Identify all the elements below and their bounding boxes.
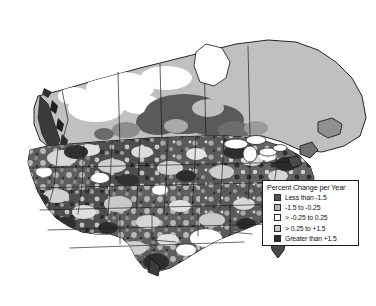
legend-label-3: > 0.25 to +1.5 [285,225,326,232]
legend-swatch-greater-than-pos-1-5 [274,235,281,242]
legend-item-0: Less than -1.5 [274,192,355,202]
legend-label-0: Less than -1.5 [285,194,327,201]
map-legend: Percent Change per Year Less than -1.5 -… [262,180,359,246]
legend-label-1: -1.5 to -0.25 [285,204,320,211]
north-america-map [0,0,376,306]
legend-label-4: Greater than +1.5 [285,235,337,242]
legend-item-3: > 0.25 to +1.5 [274,223,355,233]
legend-swatch-neg-0-25-to-0-25 [274,214,281,221]
legend-swatch-less-than-neg-1-5 [274,194,281,201]
legend-swatch-0-25-to-pos-1-5 [274,225,281,232]
legend-title: Percent Change per Year [267,183,355,192]
legend-item-1: -1.5 to -0.25 [274,202,355,212]
legend-item-2: > -0.25 to 0.25 [274,213,355,223]
legend-label-2: > -0.25 to 0.25 [285,214,328,221]
legend-item-4: Greater than +1.5 [274,234,355,244]
legend-swatch-neg-1-5-to-neg-0-25 [274,204,281,211]
map-figure: Percent Change per Year Less than -1.5 -… [0,0,376,306]
